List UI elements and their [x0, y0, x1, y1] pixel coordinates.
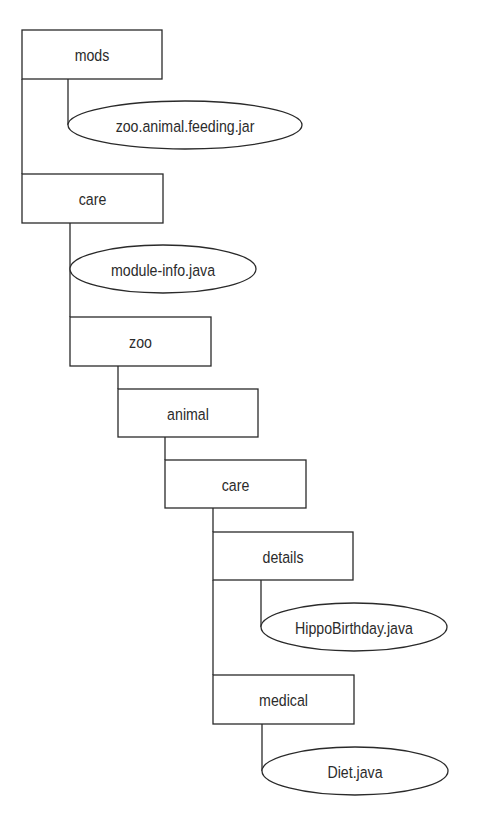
folder-node-care-inner: care — [165, 460, 306, 508]
hippo-birthday-java-label: HippoBirthday.java — [295, 619, 413, 637]
details-label: details — [263, 548, 304, 566]
folder-node-animal: animal — [118, 389, 258, 437]
zoo-label: zoo — [129, 333, 152, 351]
folder-node-zoo: zoo — [70, 317, 211, 366]
file-node-module-info-java: module-info.java — [70, 245, 256, 293]
zoo-animal-feeding-jar-label: zoo.animal.feeding.jar — [116, 117, 255, 135]
folder-node-mods: mods — [22, 30, 162, 79]
care-inner-label: care — [222, 476, 250, 494]
folder-node-care-root: care — [22, 174, 163, 223]
directory-tree-diagram: modszoo.animal.feeding.jarcaremodule-inf… — [0, 0, 479, 822]
folder-node-details: details — [213, 532, 353, 580]
care-root-label: care — [79, 190, 107, 208]
mods-label: mods — [75, 46, 110, 64]
diet-java-label: Diet.java — [327, 763, 383, 781]
file-node-zoo-animal-feeding-jar: zoo.animal.feeding.jar — [68, 101, 302, 149]
folder-node-medical: medical — [213, 675, 354, 724]
file-node-diet-java: Diet.java — [262, 747, 448, 795]
animal-label: animal — [167, 405, 209, 423]
file-node-hippo-birthday-java: HippoBirthday.java — [261, 603, 447, 651]
medical-label: medical — [259, 691, 308, 709]
nodes: modszoo.animal.feeding.jarcaremodule-inf… — [22, 30, 448, 795]
module-info-java-label: module-info.java — [111, 261, 215, 279]
